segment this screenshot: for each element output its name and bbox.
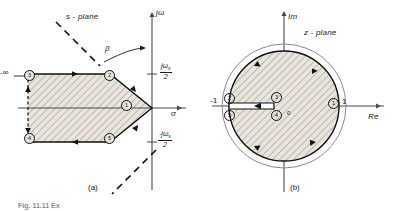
neg-jws-den: 2 — [158, 140, 172, 148]
jomega-axis-label: jω — [156, 9, 164, 17]
jws-over-2-label: jωs 2 — [160, 62, 172, 80]
z-plane-panel: Im Re z - plane -1 1 0 2 5 3 4 1 (b) — [198, 0, 396, 211]
s-marker-4: 4 — [24, 133, 35, 144]
z-marker-4: 4 — [271, 110, 282, 121]
neg-jws-num-sub: s — [168, 133, 171, 139]
re-axis-label: Re — [368, 113, 379, 121]
re-axis-arrow — [376, 103, 381, 108]
s-plane-drawing — [0, 0, 198, 211]
z-marker-2: 2 — [224, 93, 235, 104]
figure-root: s - plane jω σ β -∞ jωs 2 -jωs 2 3 2 1 4… — [0, 0, 396, 211]
s-marker-5: 5 — [104, 133, 115, 144]
s-marker-1: 1 — [121, 100, 132, 111]
panel-b-caption: (b) — [290, 183, 300, 192]
z-marker-3: 3 — [271, 92, 282, 103]
beta-arrow-head — [140, 45, 146, 50]
s-marker-3: 3 — [24, 70, 35, 81]
origin-label: 0 — [287, 110, 291, 116]
z-marker-1: 1 — [328, 98, 339, 109]
tick-one-label: 1 — [342, 98, 347, 106]
figure-caption: Fig. 11.11 Ex — [18, 202, 60, 209]
beta-dashed-line-lower — [112, 150, 156, 194]
sigma-axis-label: σ — [171, 110, 176, 118]
jomega-axis-arrow — [149, 12, 154, 17]
sigma-axis-arrow — [177, 105, 182, 110]
beta-label: β — [105, 45, 110, 53]
z-plane-drawing — [198, 0, 396, 211]
z-plane-branch-cut — [229, 103, 274, 109]
jws-den: 2 — [160, 72, 172, 80]
im-axis-label: Im — [288, 13, 297, 21]
contour-arrow-lower-right — [132, 125, 138, 131]
s-plane-label: s - plane — [66, 13, 98, 21]
jws-num-sub: s — [168, 65, 171, 71]
neg-jws-over-2-label: -jωs 2 — [158, 130, 172, 148]
z-plane-label: z - plane — [304, 29, 336, 37]
s-plane-panel: s - plane jω σ β -∞ jωs 2 -jωs 2 3 2 1 4… — [0, 0, 198, 211]
neg-infinity-label: -∞ — [0, 69, 9, 77]
beta-dashed-line-upper — [56, 22, 100, 66]
im-axis-arrow — [281, 11, 286, 16]
z-marker-5: 5 — [224, 110, 235, 121]
s-marker-2: 2 — [104, 70, 115, 81]
panel-a-caption: (a) — [88, 183, 98, 192]
tick-neg-one-label: -1 — [210, 97, 218, 105]
neg-jws-num: -jω — [159, 130, 168, 137]
jws-num: jω — [161, 62, 168, 69]
